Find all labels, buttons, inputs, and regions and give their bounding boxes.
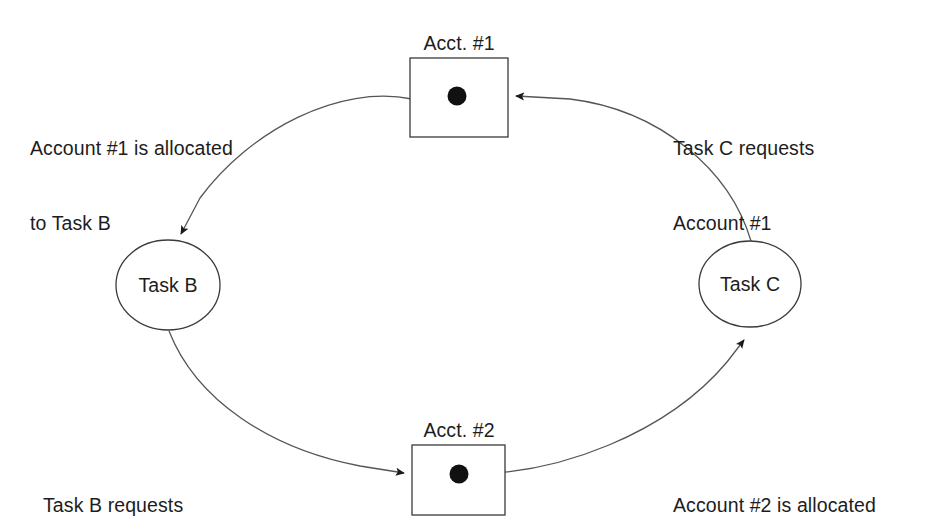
annotation-acct1-to-taskB: Account #1 is allocated to Task B (30, 86, 233, 261)
annotation-line: Task B requests (43, 493, 183, 518)
annotation-line: Account #1 (673, 211, 814, 236)
resource-label-acct2: Acct. #2 (423, 419, 494, 441)
task-label-taskC: Task C (720, 273, 780, 295)
resource-instance-dot-acct1 (448, 87, 467, 106)
resource-instance-dot-acct2 (450, 465, 469, 484)
resource-label-acct1: Acct. #1 (423, 32, 494, 54)
annotation-line: Task C requests (673, 136, 814, 161)
annotation-taskB-to-acct2: Task B requests Account #2 (43, 443, 183, 530)
resource-node-acct1[interactable]: Acct. #1 (410, 32, 508, 137)
annotation-line: Account #1 is allocated (30, 136, 233, 161)
annotation-taskC-to-acct1: Task C requests Account #1 (673, 86, 814, 261)
edge-taskB-to-acct2 (169, 331, 404, 473)
annotation-acct2-to-taskC: Account #2 is allocated to Task C (673, 443, 876, 530)
annotation-line: to Task B (30, 211, 233, 236)
task-label-taskB: Task B (138, 274, 197, 296)
resource-node-acct2[interactable]: Acct. #2 (412, 419, 505, 515)
annotation-line: Account #2 is allocated (673, 493, 876, 518)
